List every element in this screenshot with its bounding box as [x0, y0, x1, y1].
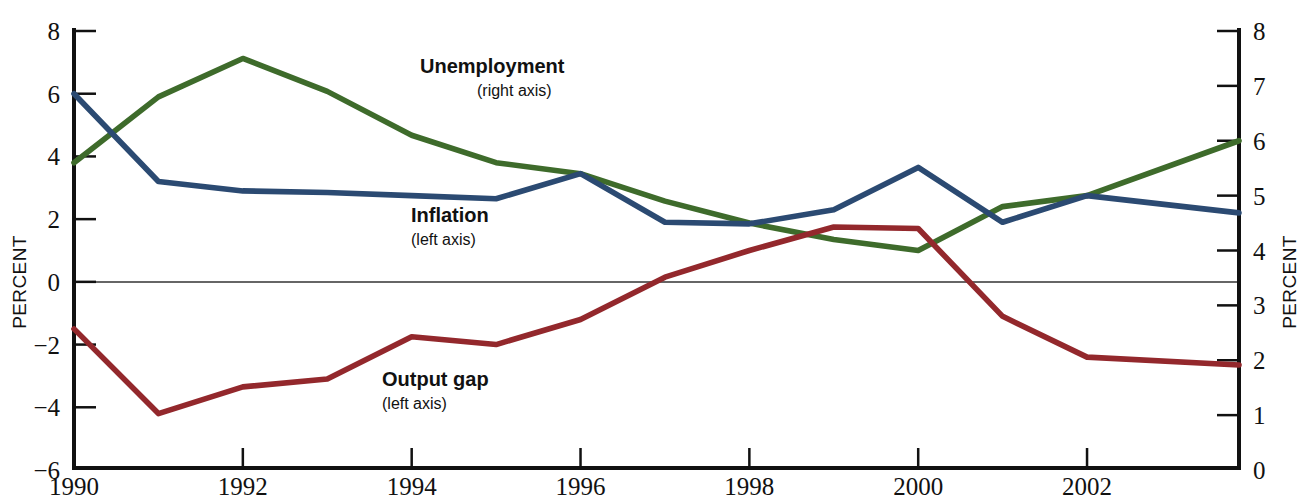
- left-tick-label-0: 0: [48, 269, 61, 296]
- series-line-unemployment: [74, 58, 1239, 250]
- left-tick-label--4: −4: [33, 394, 60, 421]
- annotation-inflation: Inflation (left axis): [411, 204, 489, 248]
- economic-indicators-chart: −6−4−202468 012345678 199019921994199619…: [0, 0, 1315, 499]
- x-tick-label-1990: 1990: [49, 473, 99, 499]
- annotation-inflation-label: Inflation: [411, 204, 489, 226]
- x-tick-label-2000: 2000: [893, 473, 943, 499]
- right-tick-label-1: 1: [1253, 402, 1266, 429]
- series-line-inflation: [74, 94, 1239, 224]
- right-tick-label-3: 3: [1253, 292, 1266, 319]
- left-axis-title: PERCENT: [9, 235, 30, 329]
- series-lines-group: [74, 58, 1239, 413]
- x-tick-label-1996: 1996: [556, 473, 606, 499]
- x-tick-label-1994: 1994: [387, 473, 438, 499]
- annotation-output-gap: Output gap (left axis): [382, 368, 489, 412]
- right-tick-label-2: 2: [1253, 347, 1266, 374]
- series-line-output-gap: [74, 227, 1239, 414]
- annotation-unemployment-label: Unemployment: [420, 55, 565, 77]
- left-tick-label-4: 4: [48, 143, 61, 170]
- left-tick-label-6: 6: [48, 81, 61, 108]
- annotation-unemployment: Unemployment (right axis): [420, 55, 565, 99]
- right-tick-label-5: 5: [1253, 183, 1266, 210]
- left-axis-tick-labels: −6−4−202468: [33, 18, 60, 484]
- annotation-output-gap-sublabel: (left axis): [382, 395, 447, 412]
- x-axis-tick-labels: 1990199219941996199820002002: [49, 473, 1112, 499]
- right-tick-label-7: 7: [1253, 73, 1266, 100]
- right-tick-label-0: 0: [1253, 457, 1266, 484]
- right-tick-label-8: 8: [1253, 18, 1266, 45]
- left-tick-label-8: 8: [48, 18, 61, 45]
- right-tick-label-4: 4: [1253, 238, 1266, 265]
- left-tick-label-2: 2: [48, 206, 61, 233]
- right-axis-tick-labels: 012345678: [1253, 18, 1266, 484]
- x-axis-ticks: [243, 448, 1087, 468]
- right-axis-ticks: [1217, 31, 1239, 415]
- x-tick-label-1998: 1998: [724, 473, 774, 499]
- chart-plot-area: −6−4−202468 012345678 199019921994199619…: [0, 0, 1315, 499]
- right-axis-title: PERCENT: [1279, 235, 1300, 329]
- x-tick-label-2002: 2002: [1062, 473, 1112, 499]
- left-tick-label--2: −2: [33, 332, 60, 359]
- annotation-inflation-sublabel: (left axis): [411, 231, 476, 248]
- x-tick-label-1992: 1992: [218, 473, 268, 499]
- annotation-output-gap-label: Output gap: [382, 368, 489, 390]
- right-tick-label-6: 6: [1253, 128, 1266, 155]
- annotation-unemployment-sublabel: (right axis): [477, 82, 552, 99]
